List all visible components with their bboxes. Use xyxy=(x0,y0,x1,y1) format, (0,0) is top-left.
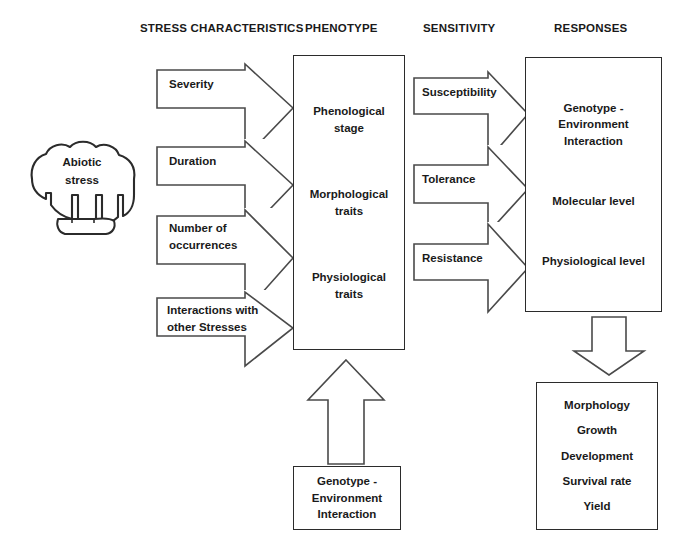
abiotic-stress-fist-illustration: Abiotic stress xyxy=(22,133,142,241)
outcome-item: Development xyxy=(561,448,633,465)
sensitivity-resistance[interactable]: Resistance xyxy=(412,222,530,314)
responses-item: Molecular level xyxy=(552,193,634,210)
responses-to-outcomes-arrow xyxy=(572,315,646,377)
abiotic-stress-label: Abiotic stress xyxy=(22,153,142,190)
outcome-item: Growth xyxy=(577,422,617,439)
column-header-sensitivity: SENSITIVITY xyxy=(423,22,496,34)
stress-characteristic-label: Duration xyxy=(169,153,216,170)
genotype-to-phenotype-arrow xyxy=(306,358,386,466)
column-header-stress-characteristics: STRESS CHARACTERISTICS xyxy=(140,22,304,34)
genotype-environment-label: Genotype - Environment Interaction xyxy=(312,473,382,523)
outcome-item: Yield xyxy=(583,498,610,515)
phenotype-item: Phenological stage xyxy=(313,103,385,136)
responses-item: Genotype - Environment Interaction xyxy=(558,100,628,150)
phenotype-item: Morphological traits xyxy=(310,186,389,219)
genotype-environment-input-box[interactable]: Genotype - Environment Interaction xyxy=(293,466,401,530)
stress-characteristic-label: Severity xyxy=(169,76,214,93)
stress-characteristic-label: Number of occurrences xyxy=(169,220,237,255)
column-header-phenotype: PHENOTYPE xyxy=(305,22,378,34)
stress-characteristic-label: Interactions with other Stresses xyxy=(167,302,258,337)
outcome-item: Morphology xyxy=(564,397,630,414)
phenotype-box[interactable]: Phenological stage Morphological traits … xyxy=(293,55,405,350)
responses-item: Physiological level xyxy=(542,253,645,270)
diagram-canvas: STRESS CHARACTERISTICS PHENOTYPE SENSITI… xyxy=(0,0,677,550)
sensitivity-label: Susceptibility xyxy=(422,84,497,101)
column-header-responses: RESPONSES xyxy=(554,22,627,34)
sensitivity-label: Resistance xyxy=(422,250,483,267)
outcomes-box[interactable]: Morphology Growth Development Survival r… xyxy=(536,382,658,530)
phenotype-item: Physiological traits xyxy=(312,269,386,302)
responses-box[interactable]: Genotype - Environment Interaction Molec… xyxy=(525,57,662,312)
outcome-item: Survival rate xyxy=(562,473,631,490)
sensitivity-label: Tolerance xyxy=(422,171,475,188)
stress-characteristic-interactions-with-other-stresses[interactable]: Interactions with other Stresses xyxy=(155,290,295,368)
